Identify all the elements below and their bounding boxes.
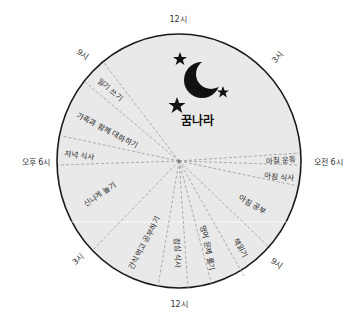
- segment-label-morning-exercise: 아침 운동: [265, 154, 296, 166]
- clock-label-top-left: 9시: [75, 47, 90, 61]
- clock-label-bottom-left: 3시: [71, 252, 86, 267]
- clock-label-top: 12시: [169, 15, 186, 24]
- daily-schedule-diagram: 꿈나라 12시 3시 오전 6시 9시 12시 3시 오후 6시 9시 아침 운…: [0, 0, 357, 324]
- clock-label-left: 오후 6시: [22, 158, 51, 167]
- center-point: [177, 159, 180, 162]
- clock-label-right: 오전 6시: [314, 157, 343, 167]
- clock-label-bottom-right: 9시: [269, 256, 284, 270]
- clock-label-top-right: 3시: [270, 50, 285, 65]
- clock-label-bottom: 12시: [170, 300, 187, 309]
- segment-label-lunch: 점심 식사: [172, 238, 183, 269]
- sleep-segment-label: 꿈나라: [181, 113, 214, 128]
